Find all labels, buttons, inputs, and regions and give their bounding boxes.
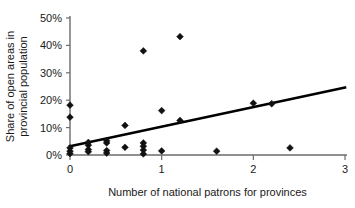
x-tick-label: 3 [342, 163, 348, 175]
y-tick-label: 0% [46, 149, 62, 161]
chart-canvas: 0%10%20%30%40%50% 0123 Number of nationa… [0, 0, 355, 208]
x-tick-label: 1 [159, 163, 165, 175]
scatter-chart: 0%10%20%30%40%50% 0123 Number of nationa… [0, 0, 355, 208]
data-point [67, 114, 74, 121]
regression-line [70, 88, 345, 147]
data-point [213, 148, 220, 155]
data-point [158, 147, 165, 154]
x-tick-label: 0 [67, 163, 73, 175]
data-point [287, 144, 294, 151]
y-axis-title-line1: Share of open areas in [4, 31, 16, 142]
data-point [158, 107, 165, 114]
data-point [140, 47, 147, 54]
y-tick-label: 10% [40, 122, 62, 134]
y-tick-label: 40% [40, 39, 62, 51]
data-point [122, 144, 129, 151]
y-axis-title-line2: provincial population [17, 36, 29, 136]
data-point [268, 100, 275, 107]
y-tick-label: 50% [40, 12, 62, 24]
data-point [177, 33, 184, 40]
data-point [122, 122, 129, 129]
data-point [140, 151, 147, 158]
x-tick-label: 2 [250, 163, 256, 175]
data-point [67, 102, 74, 109]
trend-line [70, 88, 345, 147]
y-tick-label: 20% [40, 94, 62, 106]
x-axis: 0123 [67, 155, 348, 175]
x-axis-title: Number of national patrons for provinces [108, 186, 307, 198]
y-axis: 0%10%20%30%40%50% [40, 12, 70, 161]
y-tick-label: 30% [40, 67, 62, 79]
axis-titles: Number of national patrons for provinces… [4, 31, 307, 198]
